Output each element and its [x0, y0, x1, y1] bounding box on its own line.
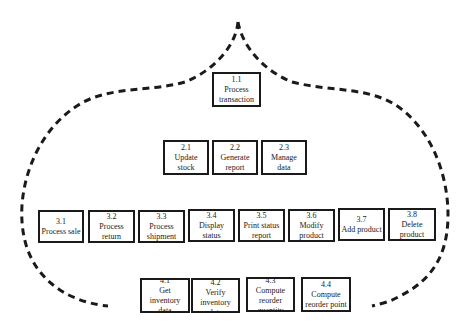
process-label: Generate report: [215, 153, 255, 173]
process-label: Update stock: [166, 153, 206, 173]
process-box-3-2: 3.2 Process return: [88, 210, 135, 243]
process-number: 3.7: [357, 215, 367, 225]
process-number: 4.1: [160, 278, 170, 286]
process-label: Compute reorder quantity: [249, 286, 292, 312]
process-label: Print status report: [241, 221, 282, 241]
process-number: 3.1: [56, 217, 66, 227]
process-number: 2.2: [230, 143, 240, 153]
process-label: Delete product: [391, 220, 433, 240]
process-label: Manage data: [264, 153, 304, 173]
process-number: 2.1: [181, 143, 191, 153]
process-box-2-1: 2.1 Update stock: [163, 140, 209, 175]
process-label: Verify inventory data: [194, 288, 237, 313]
process-label: Process return: [91, 222, 132, 242]
process-label: Compute reorder point: [304, 290, 348, 310]
process-number: 4.2: [211, 278, 221, 288]
process-number: 4.4: [321, 280, 331, 290]
process-number: 4.3: [266, 277, 276, 286]
process-box-1-1: 1.1 Process transaction: [212, 72, 261, 107]
process-label: Get inventory data: [143, 286, 187, 314]
process-box-3-3: 3.3 Process shipment: [138, 210, 185, 243]
process-label: Process sale: [42, 227, 81, 237]
process-box-3-8: 3.8 Delete product: [388, 208, 436, 241]
process-number: 3.3: [157, 212, 167, 222]
process-label: Display status: [191, 221, 232, 241]
process-box-3-5: 3.5 Print status report: [238, 209, 285, 242]
process-box-4-1: 4.1 Get inventory data: [140, 278, 190, 313]
process-box-4-3: 4.3 Compute reorder quantity: [246, 277, 295, 312]
process-box-2-3: 2.3 Manage data: [261, 140, 307, 175]
process-label: Modify product: [291, 221, 332, 241]
process-box-4-2: 4.2 Verify inventory data: [191, 278, 240, 313]
process-box-3-7: 3.7 Add product: [338, 208, 385, 241]
process-number: 3.4: [207, 211, 217, 221]
process-box-3-4: 3.4 Display status: [188, 209, 235, 242]
process-box-2-2: 2.2 Generate report: [212, 140, 258, 175]
process-box-4-4: 4.4 Compute reorder point: [301, 277, 351, 312]
process-number: 3.2: [107, 212, 117, 222]
process-label: Add product: [341, 225, 381, 235]
process-number: 3.8: [407, 210, 417, 220]
process-number: 2.3: [279, 143, 289, 153]
process-box-3-1: 3.1 Process sale: [38, 210, 84, 243]
process-label: Process shipment: [141, 222, 182, 242]
process-number: 3.5: [257, 211, 267, 221]
process-number: 3.6: [307, 211, 317, 221]
process-label: Process transaction: [215, 85, 258, 105]
process-box-3-6: 3.6 Modify product: [288, 209, 335, 242]
process-number: 1.1: [232, 75, 242, 85]
